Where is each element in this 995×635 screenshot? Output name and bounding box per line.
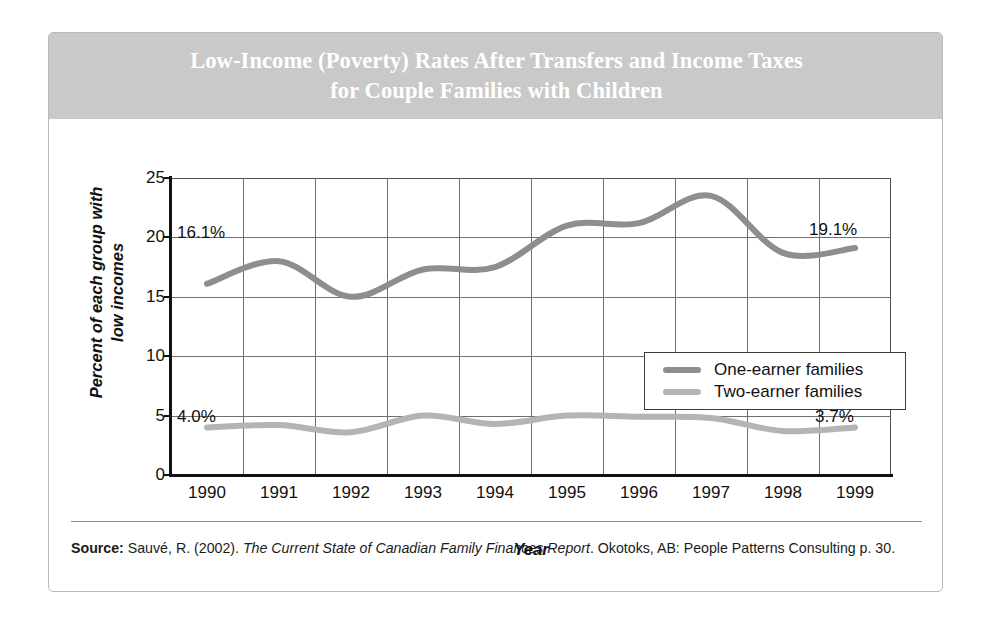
x-axis-line — [169, 474, 893, 477]
source-divider — [71, 521, 922, 522]
annotation-two-earner-start: 4.0% — [177, 407, 216, 427]
annotation-two-earner-end: 3.7% — [815, 407, 854, 427]
legend-swatch-one-earner — [663, 367, 701, 373]
page-title: Low-Income (Poverty) Rates After Transfe… — [166, 46, 827, 105]
annotation-one-earner-end: 19.1% — [809, 220, 857, 240]
plot-area: 0510152025 19901991199219931994199519961… — [171, 178, 891, 475]
legend-swatch-two-earner — [663, 389, 701, 395]
figure-title-band: Low-Income (Poverty) Rates After Transfe… — [49, 33, 943, 119]
source-author: Sauvé, R. (2002). — [124, 540, 243, 556]
y-tick-label: 10 — [105, 346, 165, 366]
series-line-two-earner — [207, 415, 855, 432]
legend-item-two-earner: Two-earner families — [663, 381, 905, 403]
x-tick-label: 1999 — [810, 483, 900, 503]
y-tick-label: 15 — [105, 287, 165, 307]
legend-label-two-earner: Two-earner families — [714, 382, 862, 402]
series-line-one-earner — [207, 195, 855, 297]
y-axis-line — [169, 176, 172, 477]
chart-region: Percent of each group with low incomes 0… — [49, 119, 943, 533]
legend-item-one-earner: One-earner families — [663, 359, 905, 381]
y-tick-label: 0 — [105, 465, 165, 485]
annotation-one-earner-start: 16.1% — [177, 223, 225, 243]
figure-card: Low-Income (Poverty) Rates After Transfe… — [48, 32, 943, 592]
y-tick-label: 25 — [105, 168, 165, 188]
source-work-title: The Current State of Canadian Family Fin… — [243, 540, 590, 556]
series-lines — [171, 178, 891, 475]
y-tick-label: 20 — [105, 227, 165, 247]
source-note: Source: Sauvé, R. (2002). The Current St… — [71, 537, 927, 560]
y-tick-label: 5 — [105, 406, 165, 426]
figure-screenshot: Low-Income (Poverty) Rates After Transfe… — [0, 0, 995, 635]
source-publication: . Okotoks, AB: People Patterns Consultin… — [590, 540, 895, 556]
legend-label-one-earner: One-earner families — [714, 360, 863, 380]
chart-legend: One-earner families Two-earner families — [644, 352, 906, 410]
source-label: Source: — [71, 540, 124, 556]
